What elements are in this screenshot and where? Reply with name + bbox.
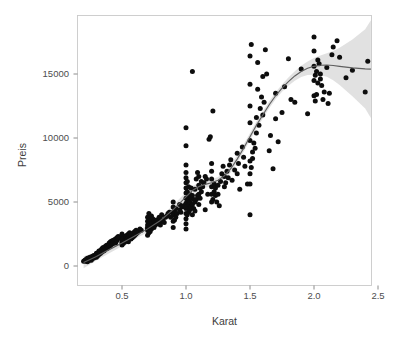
x-tick-label: 0.5 [115, 290, 128, 301]
data-point [196, 174, 201, 179]
data-point [312, 34, 317, 39]
data-point [363, 89, 368, 94]
data-point [253, 146, 258, 151]
data-point [235, 171, 240, 176]
data-point [237, 187, 242, 192]
data-point [326, 101, 331, 106]
data-point [276, 139, 281, 144]
y-tick-label: 15000 [43, 68, 69, 79]
data-point [184, 162, 189, 167]
data-point [365, 59, 370, 64]
data-point [227, 162, 232, 167]
data-point [190, 69, 195, 74]
data-point [249, 42, 254, 47]
data-point [230, 178, 235, 183]
data-point [203, 207, 208, 212]
data-point [318, 77, 323, 82]
data-point [264, 72, 269, 77]
data-point [329, 52, 334, 57]
data-point [184, 226, 189, 231]
data-point [242, 164, 247, 169]
data-point [248, 82, 253, 87]
data-point [223, 180, 228, 185]
x-tick-label: 1.5 [243, 290, 256, 301]
data-point [327, 91, 332, 96]
data-point [184, 143, 189, 148]
chart-container: 0.51.01.52.02.5 050001000015000 Karat Pr… [0, 0, 399, 337]
data-point [199, 189, 204, 194]
data-point [204, 176, 209, 181]
data-point [236, 161, 241, 166]
data-point [248, 212, 253, 217]
data-point [217, 203, 222, 208]
x-tick-label: 2.5 [371, 290, 384, 301]
data-point [198, 196, 203, 201]
data-point [271, 166, 276, 171]
data-point [171, 200, 176, 205]
data-point [209, 161, 214, 166]
data-point [184, 221, 189, 226]
data-point [255, 60, 260, 65]
data-point [248, 104, 253, 109]
data-point [254, 130, 259, 135]
data-point [312, 48, 317, 53]
data-point [344, 75, 349, 80]
data-point [241, 155, 246, 160]
data-point [286, 56, 291, 61]
data-point [322, 89, 327, 94]
data-point [216, 192, 221, 197]
data-point [314, 92, 319, 97]
scatter-plot-figure: 0.51.01.52.02.5 050001000015000 Karat Pr… [0, 0, 399, 337]
y-axis-title: Preis [16, 143, 28, 167]
data-point [324, 65, 329, 70]
data-point [221, 164, 226, 169]
y-tick-label: 10000 [43, 132, 69, 143]
data-point [268, 133, 273, 138]
data-point [162, 220, 167, 225]
data-point [248, 171, 253, 176]
data-point [249, 165, 254, 170]
data-point [184, 125, 189, 130]
data-point [250, 156, 255, 161]
y-tick-label: 5000 [48, 196, 69, 207]
data-point [263, 47, 268, 52]
data-point [305, 111, 310, 116]
data-point [248, 54, 253, 59]
data-point [209, 176, 214, 181]
data-point [209, 169, 214, 174]
data-point [171, 225, 176, 230]
data-point [318, 72, 323, 77]
data-point [255, 87, 260, 92]
data-point [185, 179, 190, 184]
data-point [319, 83, 324, 88]
data-point [258, 106, 263, 111]
x-axis-title: Karat [212, 315, 237, 327]
data-point [208, 134, 213, 139]
data-point [251, 141, 256, 146]
data-point [273, 116, 278, 121]
data-point [320, 97, 325, 102]
data-point [262, 100, 267, 105]
data-point [192, 208, 197, 213]
data-point [267, 148, 272, 153]
data-point [292, 100, 297, 105]
data-point [259, 95, 264, 100]
data-point [313, 98, 318, 103]
data-point [335, 38, 340, 43]
data-point [210, 109, 215, 114]
data-point [248, 120, 253, 125]
data-point [178, 210, 183, 215]
y-tick-label: 0 [64, 260, 69, 271]
x-tick-label: 2.0 [307, 290, 320, 301]
data-point [196, 202, 201, 207]
data-point [331, 45, 336, 50]
data-point [184, 170, 189, 175]
data-point [228, 157, 233, 162]
data-point [248, 182, 253, 187]
data-point [280, 110, 285, 115]
x-tick-label: 1.0 [179, 290, 192, 301]
data-point [337, 55, 342, 60]
data-point [254, 115, 259, 120]
